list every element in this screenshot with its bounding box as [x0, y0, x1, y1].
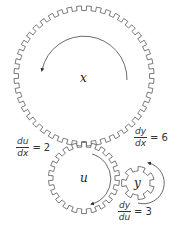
chain-rule-gear-diagram: x u y du dx = 2 dy dx = 6 dy du = 3: [0, 0, 178, 236]
gear-u-label: u: [80, 172, 88, 184]
rate-dy-dx-equals: =: [150, 132, 158, 143]
rate-dy-du-value: 3: [145, 206, 151, 217]
rate-du-dx-value: 2: [44, 142, 50, 153]
rate-dy-dx: dy dx = 6: [134, 127, 168, 148]
rate-du-dx-denominator: dx: [17, 148, 28, 158]
rate-dy-dx-denominator: dx: [135, 138, 146, 148]
rate-du-dx: du dx = 2: [16, 137, 50, 158]
gear-x-label: x: [80, 72, 87, 84]
rate-du-dx-equals: =: [32, 142, 40, 153]
rate-dy-du-equals: =: [134, 206, 142, 217]
rate-dy-du-numerator: dy: [118, 201, 131, 212]
rate-dy-du-denominator: du: [119, 212, 130, 222]
rate-du-dx-numerator: du: [16, 137, 29, 148]
rate-dy-dx-numerator: dy: [134, 127, 147, 138]
rate-dy-dx-value: 6: [161, 132, 167, 143]
gear-y-label: y: [134, 177, 141, 189]
rate-dy-du: dy du = 3: [118, 201, 152, 222]
